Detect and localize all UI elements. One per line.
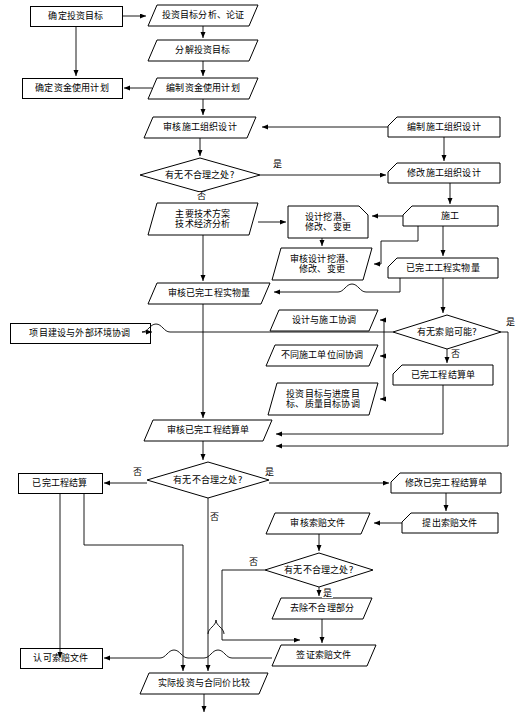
node-n14: 已完工工程实物量 [388,258,498,278]
node-n24-label: 已完工程结算 [30,478,89,488]
node-n25: 修改已完工程结算单 [391,473,501,493]
node-n12: 施工 [403,206,498,226]
node-n3: 分解投资目标 [148,40,258,61]
node-n16-label: 设计与施工协调 [290,315,358,325]
node-n25-label: 修改已完工程结算单 [403,478,490,488]
node-n31-label: 签证索赔文件 [294,650,353,660]
node-n7-label: 编制施工组织设计 [405,122,483,132]
node-n19-label: 不同施工单位间协调 [279,350,366,360]
node-n7: 编制施工组织设计 [388,117,500,137]
node-n31: 签证索赔文件 [272,645,376,666]
node-n30-label: 认可索赔文件 [31,653,90,663]
node-n5: 编制资金使用计划 [148,78,258,99]
node-n8: 有无不合理之处? [140,158,260,192]
node-n13: 审核设计挖潜、 修改、变更 [272,248,372,280]
node-n30: 认可索赔文件 [20,648,102,668]
node-n10: 主要技术方案 技术经济分析 [148,203,258,235]
node-n18-label: 有无索赔可能? [415,327,479,337]
node-n1-label: 确定投资目标 [46,11,105,21]
node-n18: 有无索赔可能? [393,315,501,349]
node-n32-label: 实际投资与合同价比较 [156,678,252,688]
flowchart-canvas: 确定投资目标投资目标分析、论证分解投资目标确定资金使用计划编制资金使用计划审核施… [0,0,515,727]
edge-label: 是 [322,589,333,598]
node-n3-label: 分解投资目标 [173,45,232,55]
edge-label: 否 [209,513,220,522]
node-n11-label: 设计挖潜、 修改、变更 [303,212,353,233]
node-n15: 审核已完工程实物量 [148,283,270,304]
node-n2: 投资目标分析、论证 [148,5,258,26]
node-n28-label: 有无不合理之处? [282,565,355,575]
node-n8-label: 有无不合理之处? [163,170,236,180]
edge-label: 否 [196,192,207,201]
node-n26-label: 审核索赔文件 [288,518,347,528]
node-n9-label: 修改施工组织设计 [405,168,483,178]
edge-label: 是 [264,468,275,477]
node-n9: 修改施工组织设计 [388,163,500,183]
edge-label: 是 [272,160,283,169]
node-n28: 有无不合理之处? [265,553,373,587]
edge-label: 是 [505,318,515,327]
node-n26: 审核索赔文件 [266,513,370,534]
node-n27: 提出索赔文件 [402,513,498,533]
node-n4: 确定资金使用计划 [22,78,122,98]
node-n29-label: 去除不合理部分 [288,603,356,613]
node-n6: 审核施工组织设计 [144,117,256,138]
node-n13-label: 审核设计挖潜、 修改、变更 [288,254,356,275]
node-n27-label: 提出索赔文件 [420,518,479,528]
node-n21: 投资目标与进度目 标、质量目标协调 [268,383,378,415]
node-n23-label: 有无不合理之处? [171,475,244,485]
node-n12-label: 施工 [439,211,461,221]
node-n2-label: 投资目标分析、论证 [160,10,247,20]
node-n5-label: 编制资金使用计划 [164,83,242,93]
node-n19: 不同施工单位间协调 [266,345,378,366]
node-n6-label: 审核施工组织设计 [161,122,239,132]
node-n1: 确定投资目标 [30,6,122,26]
flowchart-connectors [0,0,515,727]
edge-label: 否 [132,468,143,477]
node-n23: 有无不合理之处? [147,462,269,498]
node-n20: 已完工程结算单 [393,365,493,385]
node-n10-label: 主要技术方案 技术经济分析 [173,209,232,230]
node-n14-label: 已完工工程实物量 [404,263,482,273]
node-n16: 设计与施工协调 [270,310,378,331]
node-n11: 设计挖潜、 修改、变更 [288,206,368,238]
node-n22: 审核已完工程结算单 [144,420,272,441]
node-n4-label: 确定资金使用计划 [33,83,111,93]
node-n17: 项目建设与外部环境协调 [10,323,150,343]
edge-label: 否 [248,558,259,567]
node-n29: 去除不合理部分 [272,598,372,619]
node-n21-label: 投资目标与进度目 标、质量目标协调 [284,389,362,410]
node-n24: 已完工程结算 [18,473,102,493]
node-n15-label: 审核已完工程实物量 [166,288,253,298]
node-n20-label: 已完工程结算单 [409,370,477,380]
node-n22-label: 审核已完工程结算单 [165,425,252,435]
node-n32: 实际投资与合同价比较 [140,673,268,694]
edge-label: 否 [450,350,461,359]
node-n17-label: 项目建设与外部环境协调 [27,328,132,338]
